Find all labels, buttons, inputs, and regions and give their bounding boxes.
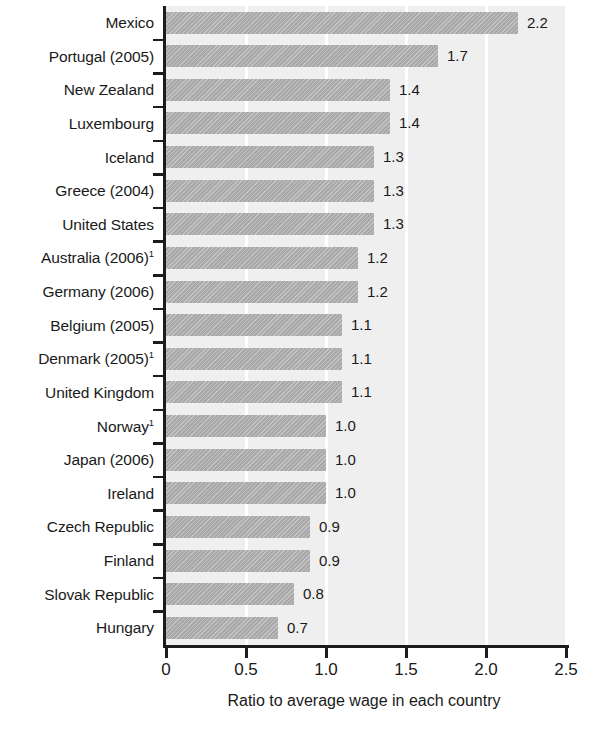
x-axis-tick (165, 648, 168, 658)
bar-value-label: 0.9 (319, 516, 340, 538)
bar (166, 146, 374, 168)
category-label: Ireland (4, 477, 154, 511)
y-axis-tick (153, 509, 164, 512)
category-label: Belgium (2005) (4, 309, 154, 343)
bar-value-label: 1.3 (383, 180, 404, 202)
bar (166, 482, 326, 504)
y-axis-tick (153, 476, 164, 479)
y-axis-tick (153, 577, 164, 580)
bar-row: Australia (2006)11.2 (0, 241, 594, 275)
category-label: Czech Republic (4, 510, 154, 544)
footnote-marker: 1 (149, 349, 154, 360)
bar (166, 381, 342, 403)
bar (166, 112, 390, 134)
bar-chart: Mexico2.2Portugal (2005)1.7New Zealand1.… (0, 0, 594, 729)
bar-row: Japan (2006)1.0 (0, 443, 594, 477)
x-axis-tick (245, 648, 248, 658)
bar-row: United States1.3 (0, 208, 594, 242)
bar-row: Hungary0.7 (0, 611, 594, 645)
y-axis-tick (153, 106, 164, 109)
bar-value-label: 1.2 (367, 247, 388, 269)
bar-row: United Kingdom1.1 (0, 376, 594, 410)
x-axis-tick (405, 648, 408, 658)
bar-row: New Zealand1.4 (0, 73, 594, 107)
category-label: Mexico (4, 6, 154, 40)
bar-value-label: 0.8 (303, 583, 324, 605)
y-axis-tick (153, 173, 164, 176)
bar-row: Luxembourg1.4 (0, 107, 594, 141)
x-axis-tick-label: 1.5 (376, 660, 436, 680)
y-axis-tick (153, 543, 164, 546)
bar-value-label: 1.3 (383, 213, 404, 235)
category-label: Norway1 (4, 410, 154, 444)
bar-value-label: 1.1 (351, 348, 372, 370)
category-label: Slovak Republic (4, 578, 154, 612)
bar (166, 213, 374, 235)
category-label: United States (4, 208, 154, 242)
y-axis-tick (153, 274, 164, 277)
category-label: New Zealand (4, 73, 154, 107)
x-axis-tick-label: 2.0 (456, 660, 516, 680)
bar (166, 180, 374, 202)
category-label: Iceland (4, 141, 154, 175)
bar (166, 281, 358, 303)
category-label: Luxembourg (4, 107, 154, 141)
category-label: Japan (2006) (4, 443, 154, 477)
bar-row: Denmark (2005)11.1 (0, 342, 594, 376)
bar-row: Iceland1.3 (0, 141, 594, 175)
category-label: Greece (2004) (4, 174, 154, 208)
y-axis-tick (153, 308, 164, 311)
y-axis-tick (153, 409, 164, 412)
category-label: United Kingdom (4, 376, 154, 410)
footnote-marker: 1 (149, 248, 154, 259)
bar-value-label: 1.1 (351, 381, 372, 403)
bar (166, 247, 358, 269)
category-label: Hungary (4, 611, 154, 645)
bar (166, 348, 342, 370)
bar-value-label: 0.9 (319, 550, 340, 572)
bar-value-label: 0.7 (287, 617, 308, 639)
bar-row: Germany (2006)1.2 (0, 275, 594, 309)
y-axis-tick (153, 341, 164, 344)
bar (166, 79, 390, 101)
bar-row: Czech Republic0.9 (0, 510, 594, 544)
category-label: Finland (4, 544, 154, 578)
bar-row: Mexico2.2 (0, 6, 594, 40)
x-axis-tick (485, 648, 488, 658)
y-axis-tick (153, 240, 164, 243)
x-axis-tick (565, 648, 568, 658)
bar-row: Portugal (2005)1.7 (0, 40, 594, 74)
category-label: Denmark (2005)1 (4, 342, 154, 376)
y-axis-tick (153, 610, 164, 613)
bar-value-label: 1.0 (335, 482, 356, 504)
x-axis-tick-label: 1.0 (296, 660, 356, 680)
footnote-marker: 1 (149, 416, 154, 427)
bar-value-label: 1.0 (335, 415, 356, 437)
bar-row: Slovak Republic0.8 (0, 578, 594, 612)
category-label: Portugal (2005) (4, 40, 154, 74)
bar-value-label: 1.0 (335, 449, 356, 471)
y-axis-tick (153, 442, 164, 445)
bar (166, 617, 278, 639)
y-axis-tick (153, 72, 164, 75)
bar-row: Ireland1.0 (0, 477, 594, 511)
y-axis-tick (153, 207, 164, 210)
category-label: Germany (2006) (4, 275, 154, 309)
bar-row: Norway11.0 (0, 410, 594, 444)
y-axis-tick (153, 140, 164, 143)
x-axis-tick-label: 0.5 (216, 660, 276, 680)
bar (166, 516, 310, 538)
bar-row: Finland0.9 (0, 544, 594, 578)
bar-value-label: 1.4 (399, 79, 420, 101)
category-label: Australia (2006)1 (4, 241, 154, 275)
y-axis-tick (153, 39, 164, 42)
x-axis-title: Ratio to average wage in each country (0, 692, 594, 710)
x-axis-tick-label: 0 (136, 660, 196, 680)
bar (166, 45, 438, 67)
x-axis-line (163, 645, 569, 648)
x-axis-tick (325, 648, 328, 658)
bar (166, 415, 326, 437)
x-axis-tick-label: 2.5 (536, 660, 594, 680)
bar-value-label: 1.2 (367, 281, 388, 303)
bar (166, 583, 294, 605)
